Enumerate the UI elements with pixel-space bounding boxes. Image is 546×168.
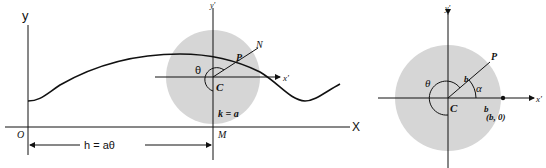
diagram-canvas: y X O h = aθ C P N θ k = a M x′ y′ y′ x′… (0, 0, 546, 168)
point-b0 (501, 96, 505, 100)
alpha-label: α (476, 82, 482, 94)
foot-label: M (217, 129, 227, 140)
origin-label: O (17, 129, 24, 140)
distance-label: h = aθ (84, 139, 115, 151)
point-p-label-right: P (491, 51, 498, 62)
local-x-label-right: x′ (535, 94, 543, 104)
normal-label: N (255, 39, 264, 50)
theta-label: θ (195, 64, 201, 76)
x-axis-label: X (352, 120, 360, 134)
right-figure: y′ x′ P C θ α b b (b, 0) (378, 4, 543, 168)
point-p-label: P (236, 52, 243, 63)
theta-label-right: θ (425, 77, 431, 89)
local-y-label: y′ (209, 1, 216, 10)
local-y-label-right: y′ (444, 4, 451, 13)
radius-label-slant: b (464, 74, 469, 84)
y-axis-label: y (22, 8, 29, 23)
left-figure: y X O h = aθ C P N θ k = a M x′ y′ (5, 1, 360, 160)
local-x-label: x′ (282, 73, 290, 83)
point-coord-label: (b, 0) (486, 112, 506, 122)
center-label: C (216, 81, 224, 93)
center-label-right: C (450, 102, 458, 114)
radius-label: k = a (218, 108, 239, 119)
